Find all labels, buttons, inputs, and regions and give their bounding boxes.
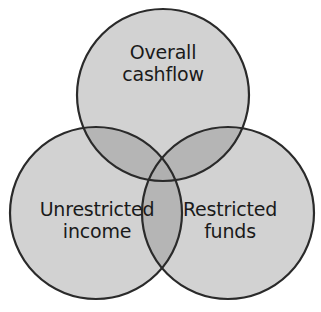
venn-diagram: Overall cashflow Unrestricted income Res… (0, 0, 321, 312)
venn-diagram-canvas (0, 0, 321, 312)
